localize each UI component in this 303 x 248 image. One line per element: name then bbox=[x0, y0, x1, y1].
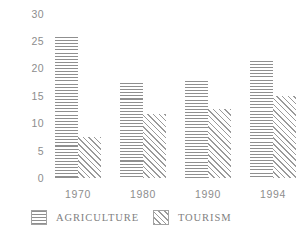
plot-area: 30 25 20 15 10 5 0 bbox=[0, 0, 303, 190]
legend-label-tourism: TOURISM bbox=[178, 212, 231, 223]
bar-tourism-1970 bbox=[78, 137, 101, 179]
legend-label-agriculture: AGRICULTURE bbox=[56, 212, 139, 223]
x-tick-label-1994: 1994 bbox=[250, 188, 296, 200]
legend-swatch-tourism-icon bbox=[153, 210, 169, 225]
bar-agriculture-1970 bbox=[55, 37, 78, 178]
x-tick-label-1990: 1990 bbox=[185, 188, 231, 200]
x-tick-label-1980: 1980 bbox=[120, 188, 166, 200]
bar-agriculture-1990 bbox=[185, 81, 208, 178]
bar-tourism-1980 bbox=[143, 114, 166, 178]
bar-agriculture-1980 bbox=[120, 83, 143, 178]
bar-tourism-1990 bbox=[208, 109, 231, 178]
bar-agriculture-1994 bbox=[250, 61, 273, 178]
bar-tourism-1994 bbox=[273, 96, 296, 178]
bar-chart: 30 25 20 15 10 5 0 bbox=[0, 0, 303, 248]
legend-entry-agriculture: AGRICULTURE bbox=[31, 210, 139, 225]
bars-layer bbox=[0, 0, 303, 190]
x-axis: 1970 1980 1990 1994 bbox=[0, 188, 303, 206]
legend-swatch-agriculture-icon bbox=[31, 210, 47, 225]
chart-legend: AGRICULTURE TOURISM bbox=[0, 210, 303, 236]
legend-entry-tourism: TOURISM bbox=[153, 210, 231, 225]
x-tick-label-1970: 1970 bbox=[55, 188, 101, 200]
